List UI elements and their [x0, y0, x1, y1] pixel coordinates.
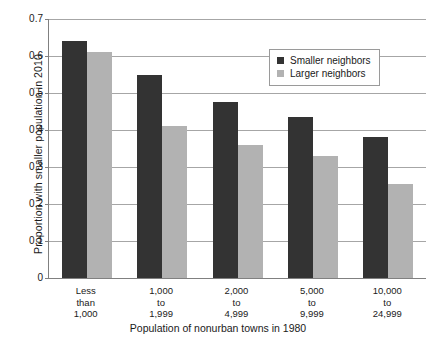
x-axis-category-label-4: 10,000to24,999	[350, 285, 425, 320]
legend-swatch-icon-smaller	[277, 57, 284, 64]
x-axis-category-label-1: 1,000to1,999	[123, 285, 198, 320]
y-axis-tick-mark	[45, 19, 49, 20]
category-label-line: 2,000	[199, 285, 274, 297]
bar-chart: Proportion with smaller population in 20…	[0, 0, 436, 344]
y-axis-tick-mark	[45, 204, 49, 205]
gridline	[49, 19, 426, 20]
category-label-line: to	[274, 297, 349, 309]
category-label-line: than	[48, 297, 123, 309]
legend-label-smaller: Smaller neighbors	[290, 55, 371, 66]
legend-label-larger: Larger neighbors	[290, 68, 366, 79]
legend-item-larger-neighbors[interactable]: Larger neighbors	[277, 67, 371, 80]
category-label-line: 9,999	[274, 308, 349, 320]
y-axis-tick-label: 0.1	[3, 235, 43, 246]
y-axis-tick-label: 0.3	[3, 161, 43, 172]
bar-smaller-4	[363, 137, 388, 278]
x-axis-category-label-2: 2,000to4,999	[199, 285, 274, 320]
category-label-line: 5,000	[274, 285, 349, 297]
y-axis-tick-label: 0.5	[3, 87, 43, 98]
legend-item-smaller-neighbors[interactable]: Smaller neighbors	[277, 54, 371, 67]
bar-smaller-0	[62, 41, 87, 278]
bar-larger-0	[87, 52, 112, 278]
y-axis-tick-label: 0.6	[3, 50, 43, 61]
y-axis-tick-label: 0	[3, 272, 43, 283]
bar-larger-4	[388, 184, 413, 278]
y-axis-tick-mark	[45, 93, 49, 94]
category-label-line: 4,999	[199, 308, 274, 320]
y-axis-tick-mark	[45, 278, 49, 279]
bar-smaller-1	[137, 75, 162, 279]
bar-larger-2	[238, 145, 263, 278]
y-axis-tick-mark	[45, 167, 49, 168]
y-axis-tick-label: 0.7	[3, 13, 43, 24]
category-label-line: to	[123, 297, 198, 309]
category-label-line: to	[199, 297, 274, 309]
category-label-line: 1,000	[123, 285, 198, 297]
bar-smaller-2	[213, 102, 238, 278]
category-label-line: 24,999	[350, 308, 425, 320]
category-label-line: 1,000	[48, 308, 123, 320]
category-label-line: to	[350, 297, 425, 309]
category-label-line: 10,000	[350, 285, 425, 297]
y-axis-tick-mark	[45, 130, 49, 131]
bar-larger-3	[313, 156, 338, 278]
bar-larger-1	[162, 126, 187, 278]
bar-smaller-3	[288, 117, 313, 278]
y-axis-tick-label: 0.2	[3, 198, 43, 209]
x-axis-category-label-0: Lessthan1,000	[48, 285, 123, 320]
x-axis-title: Population of nonurban towns in 1980	[0, 322, 436, 334]
legend: Smaller neighbors Larger neighbors	[269, 49, 380, 86]
legend-swatch-icon-larger	[277, 70, 284, 77]
category-label-line: 1,999	[123, 308, 198, 320]
y-axis-tick-mark	[45, 56, 49, 57]
category-label-line: Less	[48, 285, 123, 297]
y-axis-tick-label: 0.4	[3, 124, 43, 135]
x-axis-category-label-3: 5,000to9,999	[274, 285, 349, 320]
y-axis-tick-mark	[45, 241, 49, 242]
